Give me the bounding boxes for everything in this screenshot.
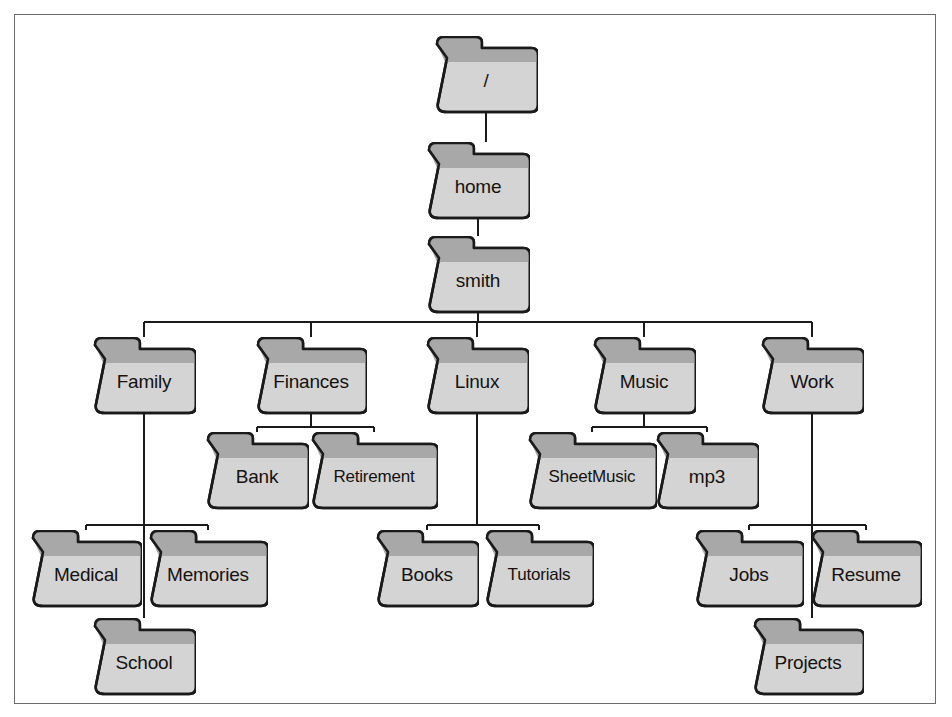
folder-node-projects[interactable]: Projects (752, 618, 864, 694)
folder-icon (205, 432, 309, 510)
folder-icon (310, 432, 438, 510)
folder-icon (426, 142, 530, 220)
folder-node-finances[interactable]: Finances (255, 337, 367, 413)
folder-node-family[interactable]: Family (92, 337, 196, 413)
folder-icon (434, 36, 538, 114)
folder-node-smith[interactable]: smith (426, 236, 530, 312)
folder-node-school[interactable]: School (92, 618, 196, 694)
diagram-canvas: /homesmithFamilyFinancesLinuxMusicWorkBa… (0, 0, 952, 717)
folder-icon (426, 236, 530, 314)
folder-icon (810, 530, 922, 608)
folder-icon (148, 530, 268, 608)
folder-node-medical[interactable]: Medical (30, 530, 142, 606)
folder-icon (30, 530, 142, 608)
folder-icon (655, 432, 759, 510)
folder-node-tutorials[interactable]: Tutorials (484, 530, 594, 606)
folder-icon (425, 337, 529, 415)
folder-icon (592, 337, 696, 415)
folder-icon (484, 530, 594, 608)
folder-icon (694, 530, 804, 608)
folder-icon (92, 337, 196, 415)
folder-icon (375, 530, 479, 608)
folder-node-home[interactable]: home (426, 142, 530, 218)
folder-node-root[interactable]: / (434, 36, 538, 112)
folder-icon (752, 618, 864, 696)
folder-node-retirement[interactable]: Retirement (310, 432, 438, 508)
folder-icon (255, 337, 367, 415)
folder-node-books[interactable]: Books (375, 530, 479, 606)
folder-node-memories[interactable]: Memories (148, 530, 268, 606)
folder-node-work[interactable]: Work (760, 337, 864, 413)
folder-icon (527, 432, 657, 510)
folder-node-sheetmusic[interactable]: SheetMusic (527, 432, 657, 508)
folder-node-jobs[interactable]: Jobs (694, 530, 804, 606)
folder-node-music[interactable]: Music (592, 337, 696, 413)
folder-icon (92, 618, 196, 696)
folder-node-bank[interactable]: Bank (205, 432, 309, 508)
folder-node-resume[interactable]: Resume (810, 530, 922, 606)
folder-node-mp3[interactable]: mp3 (655, 432, 759, 508)
folder-icon (760, 337, 864, 415)
folder-node-linux[interactable]: Linux (425, 337, 529, 413)
